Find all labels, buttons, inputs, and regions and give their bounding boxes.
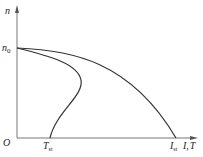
n0-label: n0 xyxy=(2,42,11,55)
origin-label: O xyxy=(3,137,10,148)
y-axis-label: n xyxy=(5,5,10,16)
x-axis-label: I,T xyxy=(182,140,197,151)
torque-curve xyxy=(17,48,81,138)
i-st-label: Ist xyxy=(169,140,178,152)
current-curve xyxy=(17,48,176,138)
y-axis-arrow-icon xyxy=(15,5,19,13)
motor-characteristic-diagram: n n0 O Tst Ist I,T xyxy=(0,0,203,157)
t-st-label: Tst xyxy=(43,140,53,152)
